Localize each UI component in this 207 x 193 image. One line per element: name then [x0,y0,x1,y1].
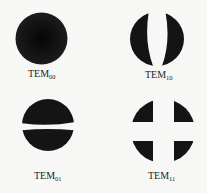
label-tem01-base: TEM [34,170,55,181]
tem-mode-diagram [0,0,207,193]
label-tem00-subscript: 00 [49,73,56,80]
label-tem10: TEM10 [145,69,173,81]
mode-tem10-pattern [120,5,195,66]
label-tem00-base: TEM [28,68,49,79]
label-tem11-subscript: 11 [169,175,175,182]
label-tem10-base: TEM [145,69,166,80]
mode-tem00-pattern [16,13,68,65]
label-tem00: TEM00 [28,68,56,80]
mode-tem01-pattern [15,90,80,160]
label-tem10-subscript: 10 [166,74,173,81]
mode-tem11-pattern [128,98,199,165]
label-tem11-base: TEM [148,170,169,181]
label-tem01: TEM01 [34,170,62,182]
label-tem11: TEM11 [148,170,175,182]
label-tem01-subscript: 01 [55,175,62,182]
